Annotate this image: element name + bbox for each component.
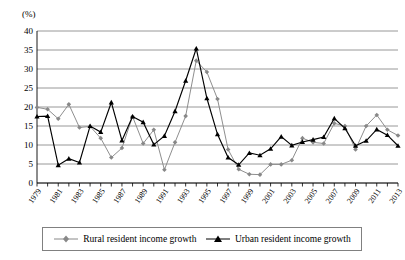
legend-item-urban: Urban resident income growth	[205, 234, 351, 244]
x-axis-tick-label: 1985	[90, 187, 107, 205]
data-point	[109, 100, 114, 105]
data-point	[141, 120, 146, 125]
data-point	[173, 140, 178, 145]
x-axis-tick-label: 2003	[281, 187, 298, 205]
data-point	[385, 133, 390, 138]
y-axis-tick-label: 5	[29, 159, 34, 169]
data-point	[35, 105, 40, 110]
data-point	[215, 132, 220, 137]
y-axis-tick-label: 20	[24, 102, 34, 112]
x-axis-tick-label: 1991	[154, 187, 171, 205]
x-axis-tick-label: 2005	[303, 187, 320, 205]
line-chart: 0510152025303540197919811983198519871989…	[0, 0, 405, 260]
data-point	[194, 46, 199, 51]
data-point	[226, 147, 231, 152]
chart-legend: Rural resident income growth Urban resid…	[42, 227, 362, 251]
y-axis-tick-label: 30	[24, 64, 34, 74]
y-axis-tick-label: 0	[29, 178, 34, 188]
data-point	[215, 97, 220, 102]
x-axis-tick-label: 1979	[27, 187, 44, 205]
x-axis-tick-label: 1995	[196, 187, 213, 205]
data-point	[396, 133, 401, 138]
x-axis-tick-label: 1983	[69, 187, 86, 205]
data-point	[279, 134, 284, 139]
y-axis-tick-label: 35	[24, 45, 34, 55]
x-axis-tick-label: 2009	[345, 187, 362, 205]
data-point	[119, 138, 124, 143]
chart-container: (%) 051015202530354019791981198319851987…	[0, 0, 405, 260]
x-axis-tick-label: 2011	[367, 187, 383, 205]
y-axis-tick-label: 25	[24, 83, 34, 93]
x-axis-tick-label: 1993	[175, 187, 192, 205]
series-line-rural	[37, 61, 398, 175]
x-axis-tick-label: 1997	[218, 187, 235, 205]
data-point	[172, 109, 177, 114]
data-point	[183, 114, 188, 119]
data-point	[247, 172, 252, 177]
data-point	[247, 150, 252, 155]
data-point	[374, 127, 379, 132]
x-axis-tick-label: 1981	[48, 187, 65, 205]
data-point	[321, 134, 326, 139]
data-point	[353, 147, 358, 152]
data-point	[183, 78, 188, 83]
legend-label-urban: Urban resident income growth	[235, 234, 351, 244]
data-point	[56, 163, 61, 168]
diamond-marker-icon	[53, 234, 79, 244]
data-point	[162, 133, 167, 138]
x-axis-tick-label: 2013	[388, 187, 405, 205]
triangle-marker-icon	[205, 234, 231, 244]
data-point	[162, 167, 167, 172]
y-axis-tick-label: 15	[24, 121, 34, 131]
x-axis-tick-label: 2007	[324, 187, 341, 205]
data-point	[290, 158, 295, 163]
y-axis-tick-label: 40	[24, 26, 34, 36]
x-axis-tick-label: 1999	[239, 187, 256, 205]
x-axis-tick-label: 2001	[260, 187, 277, 205]
y-axis-tick-label: 10	[24, 140, 34, 150]
x-axis-tick-label: 1989	[133, 187, 150, 205]
legend-item-rural: Rural resident income growth	[53, 234, 196, 244]
data-point	[98, 129, 103, 134]
data-point	[236, 167, 241, 172]
data-point	[66, 156, 71, 161]
data-point	[204, 96, 209, 101]
data-point	[279, 162, 284, 167]
data-point	[226, 155, 231, 160]
data-point	[332, 116, 337, 121]
x-axis-tick-label: 1987	[112, 187, 129, 205]
legend-label-rural: Rural resident income growth	[83, 234, 196, 244]
